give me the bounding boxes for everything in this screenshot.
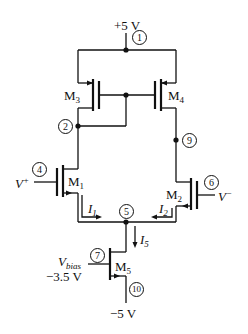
i1-arrow-icon <box>96 215 102 220</box>
junction-node-9 <box>173 137 178 142</box>
node-10-label: 10 <box>129 282 144 297</box>
m1-label: M1 <box>68 175 84 191</box>
m2-label: M2 <box>166 188 182 204</box>
junction-gate-bus <box>123 92 128 97</box>
vplus-label: V+ <box>15 176 29 190</box>
m4-label: M4 <box>168 89 184 105</box>
m1-source-arrow-icon <box>66 191 72 196</box>
node-6-label: 6 <box>204 175 219 190</box>
node-9-label: 9 <box>182 133 197 148</box>
vss-label: −5 V <box>110 307 136 320</box>
i1-label: I1 <box>88 202 97 218</box>
i2-label: I2 <box>159 202 168 218</box>
junction-node-2 <box>75 123 80 128</box>
node-7-label: 7 <box>90 248 105 263</box>
i5-arrow-icon <box>133 242 138 248</box>
junction-node-1 <box>123 47 128 52</box>
vbias-value: −3.5 V <box>46 270 82 283</box>
i2-arrow-icon <box>151 215 157 220</box>
node-1-label: 1 <box>132 30 147 45</box>
node-2-label: 2 <box>58 119 73 134</box>
node-4-label: 4 <box>32 162 47 177</box>
node-5-label: 5 <box>119 204 134 219</box>
m5-label: M5 <box>115 260 131 276</box>
m3-label: M3 <box>64 89 80 105</box>
i5-label: I5 <box>140 233 149 249</box>
vminus-label: V− <box>218 189 232 203</box>
m2-source-arrow-icon <box>182 204 188 209</box>
junction-node-5 <box>123 219 128 224</box>
